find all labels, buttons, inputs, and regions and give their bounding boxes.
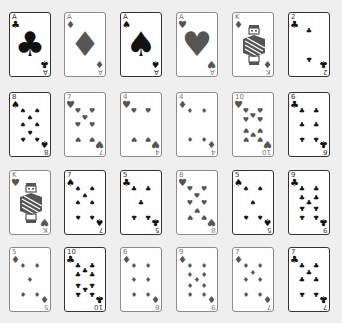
club-icon: ♣	[299, 203, 305, 210]
diamond-icon: ♦	[20, 289, 26, 296]
pip-area: ♠♠♠♠♠♠♠	[73, 185, 97, 220]
diamond-icon: ♦	[257, 289, 263, 296]
heart-icon: ♥	[75, 134, 81, 141]
diamond-icon: ♦	[187, 263, 193, 270]
heart-icon: ♥	[75, 121, 81, 128]
card-a-of-diamonds[interactable]: A♦A♦♦	[64, 12, 106, 77]
club-icon: ♣	[313, 195, 319, 202]
club-icon: ♣	[131, 186, 137, 193]
card-7-of-diamonds[interactable]: 7♦7♦♦♦♦♦♦♦♦	[232, 247, 274, 312]
pip-area: ♦♦♦♦♦♦	[129, 262, 153, 297]
card-10-of-hearts[interactable]: 10♥10♥♥♥♥♥♥♥♥♥♥♥	[232, 92, 274, 157]
heart-icon: ♥	[187, 186, 193, 193]
card-7-of-hearts[interactable]: 7♥7♥♥♥♥♥♥♥♥	[64, 92, 106, 157]
card-a-of-clubs[interactable]: A♣A♣♣	[9, 12, 51, 77]
spade-icon: ♠	[250, 199, 256, 206]
card-5-of-spades[interactable]: 5♠5♠♠♠♠♠♠	[232, 170, 274, 235]
club-icon: ♣	[313, 289, 319, 296]
diamond-icon: ♦	[201, 289, 207, 296]
diamond-icon: ♦	[131, 289, 137, 296]
heart-icon: ♥	[250, 130, 256, 137]
club-icon: ♣	[10, 26, 50, 62]
card-a-of-hearts[interactable]: A♥A♥♥	[176, 12, 218, 77]
pip-area: ♦♦♦♦♦	[18, 262, 42, 297]
club-icon: ♣	[75, 263, 81, 270]
diamond-icon: ♦	[34, 289, 40, 296]
diamond-icon: ♦	[201, 108, 207, 115]
pip-area: ♦♦♦♦	[185, 107, 209, 142]
card-7-of-spades[interactable]: 7♠7♠♠♠♠♠♠♠♠	[64, 170, 106, 235]
card-6-of-diamonds[interactable]: 6♦6♦♦♦♦♦♦♦	[120, 247, 162, 312]
heart-icon: ♥	[131, 134, 137, 141]
diamond-icon: ♦	[145, 263, 151, 270]
heart-icon: ♥	[201, 212, 207, 219]
pip-area: ♣♣♣♣♣♣♣	[297, 262, 321, 297]
club-icon: ♣	[299, 121, 305, 128]
spade-icon: ♠	[82, 192, 88, 199]
diamond-icon: ♦	[201, 272, 207, 279]
pip-area: ♠♠♠♠♠♠♠♠	[18, 107, 42, 142]
club-icon: ♣	[313, 134, 319, 141]
card-k-of-diamonds[interactable]: K♦K♦	[232, 12, 274, 77]
card-9-of-diamonds[interactable]: 9♦9♦♦♦♦♦♦♦♦♦♦	[176, 247, 218, 312]
spade-icon: ♠	[89, 186, 95, 193]
diamond-icon: ♦	[201, 134, 207, 141]
card-5-of-clubs[interactable]: 5♣5♣♣♣♣♣♣	[120, 170, 162, 235]
club-icon: ♣	[131, 212, 137, 219]
diamond-icon: ♦	[243, 263, 249, 270]
club-icon: ♣	[89, 289, 95, 296]
card-a-of-spades[interactable]: A♠A♠♠	[120, 12, 162, 77]
card-2-of-clubs[interactable]: 2♣2♣♣♣	[288, 12, 330, 77]
spade-icon: ♠	[75, 186, 81, 193]
diamond-icon: ♦	[187, 280, 193, 287]
card-9-of-clubs[interactable]: 9♣9♣♣♣♣♣♣♣♣♣♣	[288, 170, 330, 235]
heart-icon: ♥	[243, 108, 249, 115]
spade-icon: ♠	[89, 212, 95, 219]
card-8-of-spades[interactable]: 8♠8♠♠♠♠♠♠♠♠♠	[9, 92, 51, 157]
club-icon: ♣	[75, 280, 81, 287]
heart-icon: ♥	[75, 108, 81, 115]
club-icon: ♣	[306, 54, 312, 61]
diamond-icon: ♦	[145, 276, 151, 283]
heart-icon: ♥	[177, 26, 217, 62]
pip-area: ♦♦♦♦♦♦♦♦♦	[185, 262, 209, 297]
card-4-of-diamonds[interactable]: 4♦4♦♦♦♦♦	[176, 92, 218, 157]
heart-icon: ♥	[89, 108, 95, 115]
card-10-of-clubs[interactable]: 10♣10♣♣♣♣♣♣♣♣♣♣♣	[64, 247, 106, 312]
diamond-icon: ♦	[187, 108, 193, 115]
diamond-icon: ♦	[187, 134, 193, 141]
spade-icon: ♠	[89, 199, 95, 206]
diamond-icon: ♦	[27, 276, 33, 283]
pip-area: ♣♣♣♣♣♣♣♣♣♣	[73, 262, 97, 297]
spade-icon: ♠	[243, 186, 249, 193]
heart-icon: ♥	[257, 117, 263, 124]
pip-area: ♥♥♥♥♥♥♥	[73, 107, 97, 142]
card-7-of-clubs[interactable]: 7♣7♣♣♣♣♣♣♣♣	[288, 247, 330, 312]
spade-icon: ♠	[34, 134, 40, 141]
club-icon: ♣	[313, 212, 319, 219]
club-icon: ♣	[299, 108, 305, 115]
card-5-of-diamonds[interactable]: 5♦5♦♦♦♦♦♦	[9, 247, 51, 312]
pip-area: ♥♥♥♥	[129, 107, 153, 142]
card-8-of-hearts[interactable]: 8♥8♥♥♥♥♥♥♥♥♥	[176, 170, 218, 235]
spade-icon: ♠	[20, 134, 26, 141]
heart-icon: ♥	[82, 114, 88, 121]
heart-icon: ♥	[257, 134, 263, 141]
card-4-of-hearts[interactable]: 4♥4♥♥♥♥♥	[120, 92, 162, 157]
spade-icon: ♠	[27, 128, 33, 135]
card-6-of-clubs[interactable]: 6♣6♣♣♣♣♣♣♣	[288, 92, 330, 157]
spade-icon: ♠	[75, 212, 81, 219]
pip-area: ♠♠♠♠♠	[241, 185, 265, 220]
heart-icon: ♥	[187, 212, 193, 219]
pip-area: ♣♣	[297, 27, 321, 62]
spade-icon: ♠	[20, 108, 26, 115]
diamond-icon: ♦	[201, 263, 207, 270]
heart-icon: ♥	[145, 134, 151, 141]
club-icon: ♣	[313, 203, 319, 210]
card-k-of-hearts[interactable]: K♥K♥	[9, 170, 51, 235]
pip-area: ♣♣♣♣♣♣	[297, 107, 321, 142]
diamond-icon: ♦	[20, 263, 26, 270]
spade-icon: ♠	[121, 26, 161, 62]
club-icon: ♣	[299, 186, 305, 193]
diamond-icon: ♦	[257, 263, 263, 270]
